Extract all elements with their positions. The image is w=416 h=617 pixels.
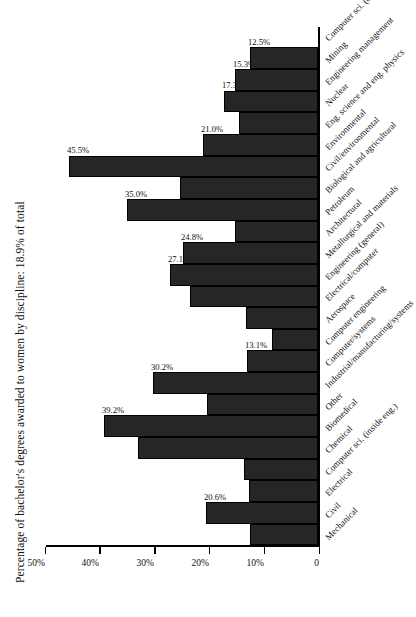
bar[interactable] (250, 47, 319, 69)
bar-item[interactable]: 27.1%Engineering (general) (46, 264, 318, 286)
plot-area: 010%20%30%40%50% 12.4%Mechanical20.6%Civ… (46, 27, 320, 547)
bar[interactable] (272, 329, 319, 351)
axis-tick-label: 10% (246, 558, 263, 568)
chart-title: Percentage of bachelor's degrees awarded… (14, 201, 26, 583)
bar-item[interactable]: 25.3%Biological and agricultural (46, 177, 318, 199)
axis-tick: 40% (99, 547, 100, 554)
bar-item[interactable]: 35.0%Petroleum (46, 199, 318, 221)
bar-item[interactable]: 23.4%Electrical/computer (46, 286, 318, 308)
axis-tick-label: 40% (82, 558, 99, 568)
bar[interactable] (235, 69, 319, 91)
bar[interactable] (239, 112, 318, 134)
bar[interactable] (138, 437, 318, 459)
bar[interactable] (249, 480, 319, 502)
bar-item[interactable]: 15.3%Engineering management (46, 69, 318, 91)
bar-item[interactable]: 13.6%Computer sci. (inside eng.) (46, 459, 318, 481)
bar[interactable] (247, 351, 319, 373)
bar-item[interactable]: 12.5%Mining (46, 47, 318, 69)
bar[interactable] (207, 394, 318, 416)
bar-item[interactable]: 39.2%Biomedical (46, 415, 318, 437)
bar[interactable] (170, 264, 319, 286)
bar-item[interactable]: 15.3%Architectural (46, 221, 318, 243)
bar[interactable] (69, 156, 318, 178)
bar[interactable] (250, 524, 318, 546)
bar-group: 12.4%Mechanical20.6%Civil12.7%Electrical… (46, 25, 318, 545)
bar[interactable] (206, 502, 319, 524)
bar-item[interactable]: 12.4%Mechanical (46, 524, 318, 546)
bar-item[interactable]: 32.9%Chemical (46, 437, 318, 459)
bar-item[interactable]: 20.6%Civil (46, 502, 318, 524)
bar-item[interactable]: 30.2%Industrial/manufacturing/systems (46, 372, 318, 394)
axis-tick: 0 (319, 547, 320, 554)
bar-item[interactable]: 14.5%Eng. science and eng. physics (46, 112, 318, 134)
category-axis-line (318, 27, 320, 547)
bar[interactable] (180, 177, 319, 199)
bar[interactable] (203, 134, 318, 156)
axis-tick: 20% (209, 547, 210, 554)
bar[interactable] (244, 459, 319, 481)
bar-item[interactable]: 45.5%Civil/environmental (46, 156, 318, 178)
bar[interactable] (127, 199, 319, 221)
bar-item[interactable]: 13.2%Aerospace (46, 307, 318, 329)
bar[interactable] (190, 286, 318, 308)
bar[interactable] (104, 415, 319, 437)
bar[interactable] (183, 242, 319, 264)
bar-item[interactable]: 20.3%Other (46, 394, 318, 416)
axis-tick: 30% (154, 547, 155, 554)
axis-tick-label: 0 (314, 558, 319, 568)
bar[interactable] (246, 307, 318, 329)
axis-tick-label: 20% (192, 558, 209, 568)
bar-item[interactable]: Computer sci. (outside eng.) (46, 26, 318, 48)
bar-item[interactable]: 17.3%Nuclear (46, 91, 318, 113)
axis-tick-label: 30% (137, 558, 154, 568)
bar[interactable] (153, 372, 318, 394)
bar-item[interactable]: 12.7%Electrical (46, 480, 318, 502)
bar-item[interactable]: 13.1%Computer/systems (46, 351, 318, 373)
axis-tick: 10% (264, 547, 265, 554)
bar[interactable] (224, 91, 319, 113)
axis-tick: 50% (45, 547, 46, 554)
value-axis-line (46, 545, 320, 547)
bar-item[interactable]: 21.0%Environmental (46, 134, 318, 156)
axis-tick-label: 50% (27, 558, 44, 568)
bar-item[interactable]: 24.8%Metallurgical and materials (46, 242, 318, 264)
bar-item[interactable]: 8.5%Computer engineering (46, 329, 318, 351)
bar[interactable] (235, 221, 319, 243)
